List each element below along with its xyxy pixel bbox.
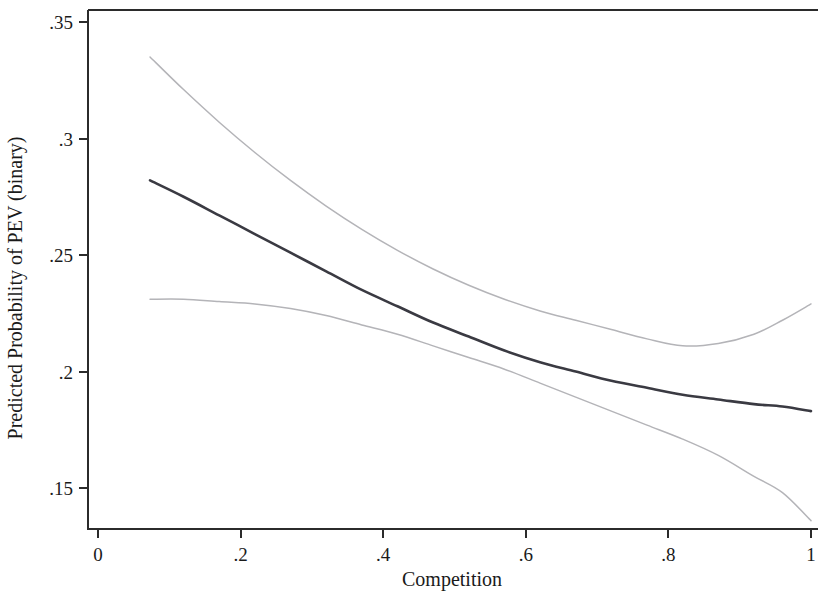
y-tick-label: .15: [49, 478, 73, 499]
x-tick-label: .2: [233, 544, 247, 565]
chart-figure: .15.2.25.3.350.2.4.6.81 Competition Pred…: [0, 0, 820, 597]
x-tick-label: .4: [376, 544, 391, 565]
x-tick-label: 1: [806, 544, 816, 565]
x-tick-label: .8: [661, 544, 675, 565]
y-tick-label: .25: [49, 245, 73, 266]
y-tick-label: .2: [59, 362, 73, 383]
x-tick-label: 0: [93, 544, 103, 565]
y-tick-label: .3: [59, 129, 73, 150]
y-axis-title: Predicted Probability of PEV (binary): [4, 137, 27, 440]
chart-canvas: .15.2.25.3.350.2.4.6.81 Competition Pred…: [0, 0, 820, 597]
y-tick-label: .35: [49, 12, 73, 33]
x-tick-label: .6: [519, 544, 533, 565]
prediction-line: [150, 180, 811, 411]
confidence-lower-line: [150, 299, 811, 521]
axis-tick-labels: .15.2.25.3.350.2.4.6.81: [49, 12, 816, 565]
x-axis-title: Competition: [402, 568, 502, 591]
chart-series: [150, 57, 811, 521]
axis-ticks: [79, 22, 811, 538]
